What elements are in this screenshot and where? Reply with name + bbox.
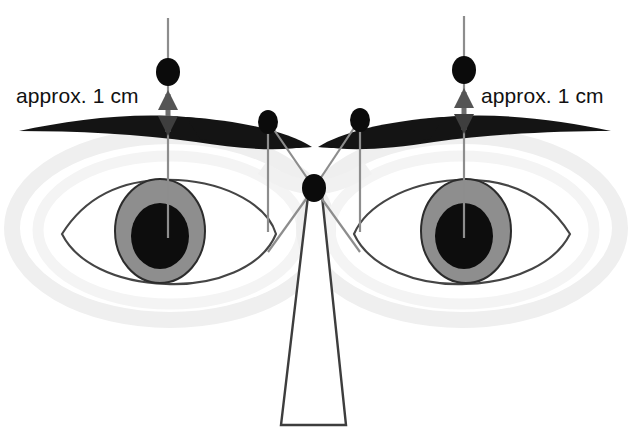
eye-anatomy-figure — [0, 0, 630, 444]
left-outer-marker-dot — [156, 58, 180, 86]
nose-outline — [281, 196, 346, 425]
left-inner-marker-dot — [258, 110, 278, 134]
right-outer-marker-dot — [452, 56, 476, 84]
approx-1-cm-left-label: approx. 1 cm — [16, 84, 139, 108]
left-arrow-head-up — [158, 90, 178, 110]
right-inner-marker-dot — [350, 108, 370, 132]
center-marker-dot — [302, 174, 326, 202]
approx-1-cm-right-label: approx. 1 cm — [481, 84, 604, 108]
diagram-canvas: approx. 1 cm approx. 1 cm — [0, 0, 630, 444]
right-arrow-head-up — [454, 88, 474, 108]
left-pupil — [131, 203, 189, 269]
